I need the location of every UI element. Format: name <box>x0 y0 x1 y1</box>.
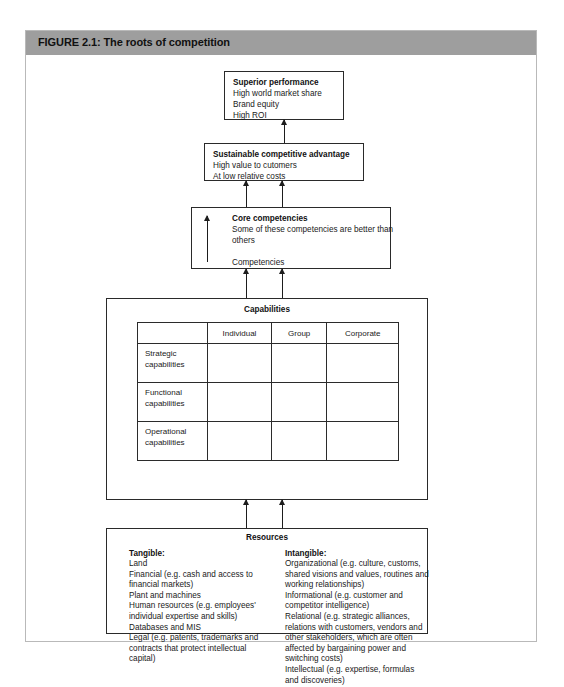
box-capabilities[interactable]: Capabilities Individual Group Corporate … <box>106 298 428 500</box>
capabilities-table-header-row: Individual Group Corporate <box>138 323 399 344</box>
intangible-line-9: affected by bargaining power and <box>285 644 445 655</box>
tangible-line-6: individual expertise and skills) <box>129 612 279 623</box>
resources-title: Resources <box>107 533 427 542</box>
core-competencies-line-2: others <box>232 235 384 246</box>
sustainable-advantage-heading: Sustainable competitive advantage <box>213 149 355 160</box>
intangible-line-4: Informational (e.g. customer and <box>285 591 445 602</box>
row-label-functional-line2: capabilities <box>145 399 185 408</box>
tangible-line-8: Legal (e.g. patents, trademarks and <box>129 633 279 644</box>
row-label-strategic: Strategic capabilities <box>138 344 208 383</box>
arrow-capabilities-to-core-left <box>246 269 247 298</box>
table-row: Functional capabilities <box>138 383 399 422</box>
tangible-line-3: financial markets) <box>129 580 279 591</box>
box-core-competencies[interactable]: Core competencies Some of these competen… <box>191 207 391 269</box>
cell-strategic-corporate[interactable] <box>327 344 399 383</box>
arrow-core-to-sustainable-left <box>246 181 247 207</box>
intangible-line-7: relations with customers, vendors and <box>285 623 445 634</box>
cell-operational-individual[interactable] <box>208 422 272 461</box>
intangible-line-6: Relational (e.g. strategic alliances, <box>285 612 445 623</box>
intangible-line-2: shared visions and values, routines and <box>285 570 445 581</box>
row-label-functional: Functional capabilities <box>138 383 208 422</box>
arrow-competencies-upward <box>207 216 208 262</box>
core-competencies-footer: Competencies <box>232 257 384 268</box>
arrow-capabilities-to-core-right <box>282 269 283 298</box>
tangible-line-7: Databases and MIS <box>129 623 279 634</box>
arrow-core-to-sustainable-right <box>282 181 283 207</box>
capabilities-col-corporate: Corporate <box>327 323 399 344</box>
row-label-operational: Operational capabilities <box>138 422 208 461</box>
intangible-line-12: and discoveries) <box>285 676 445 687</box>
resources-intangible-column: Intangible: Organizational (e.g. culture… <box>285 548 445 686</box>
row-label-functional-line1: Functional <box>145 388 182 397</box>
core-competencies-heading: Core competencies <box>232 213 384 224</box>
cell-strategic-individual[interactable] <box>208 344 272 383</box>
diagram-canvas: Superior performance High world market s… <box>26 55 538 642</box>
tangible-line-10: capital) <box>129 654 279 665</box>
intangible-line-5: competitor intelligence) <box>285 601 445 612</box>
box-resources[interactable]: Resources Tangible: Land Financial (e.g.… <box>106 528 428 634</box>
cell-strategic-group[interactable] <box>271 344 327 383</box>
tangible-heading: Tangible: <box>129 548 279 559</box>
tangible-line-2: Financial (e.g. cash and access to <box>129 570 279 581</box>
intangible-line-3: working relationships) <box>285 580 445 591</box>
box-sustainable-competitive-advantage[interactable]: Sustainable competitive advantage High v… <box>204 143 364 181</box>
resources-tangible-column: Tangible: Land Financial (e.g. cash and … <box>129 548 279 665</box>
row-label-strategic-line2: capabilities <box>145 360 185 369</box>
core-competencies-line-1: Some of these competencies are better th… <box>232 224 384 235</box>
row-label-operational-line1: Operational <box>145 427 186 436</box>
intangible-line-1: Organizational (e.g. culture, customs, <box>285 559 445 570</box>
box-superior-performance[interactable]: Superior performance High world market s… <box>224 71 344 120</box>
cell-operational-group[interactable] <box>271 422 327 461</box>
capabilities-table: Individual Group Corporate Strategic cap… <box>137 322 399 461</box>
figure-frame: FIGURE 2.1: The roots of competition Sup… <box>25 30 537 642</box>
intangible-line-11: Intellectual (e.g. expertise, formulas <box>285 665 445 676</box>
cell-functional-individual[interactable] <box>208 383 272 422</box>
tangible-line-5: Human resources (e.g. employees' <box>129 601 279 612</box>
superior-performance-line-2: Brand equity <box>233 99 335 110</box>
tangible-line-1: Land <box>129 559 279 570</box>
figure-header-bar: FIGURE 2.1: The roots of competition <box>26 31 536 55</box>
table-row: Strategic capabilities <box>138 344 399 383</box>
capabilities-title: Capabilities <box>107 305 427 314</box>
cell-functional-corporate[interactable] <box>327 383 399 422</box>
arrow-resources-to-capabilities-left <box>246 500 247 528</box>
intangible-heading: Intangible: <box>285 548 445 559</box>
sustainable-advantage-line-1: High value to cutomers <box>213 160 355 171</box>
cell-functional-group[interactable] <box>271 383 327 422</box>
row-label-operational-line2: capabilities <box>145 438 185 447</box>
superior-performance-line-1: High world market share <box>233 88 335 99</box>
intangible-line-8: other stakeholders, which are often <box>285 633 445 644</box>
capabilities-col-individual: Individual <box>208 323 272 344</box>
capabilities-col-blank <box>138 323 208 344</box>
figure-title: FIGURE 2.1: The roots of competition <box>38 36 230 48</box>
arrow-resources-to-capabilities-right <box>282 500 283 528</box>
tangible-line-4: Plant and machines <box>129 591 279 602</box>
cell-operational-corporate[interactable] <box>327 422 399 461</box>
tangible-line-9: contracts that protect intellectual <box>129 644 279 655</box>
row-label-strategic-line1: Strategic <box>145 349 177 358</box>
capabilities-col-group: Group <box>271 323 327 344</box>
intangible-line-10: switching costs) <box>285 654 445 665</box>
arrow-sustainable-to-superior <box>284 120 285 143</box>
table-row: Operational capabilities <box>138 422 399 461</box>
superior-performance-heading: Superior performance <box>233 77 335 88</box>
